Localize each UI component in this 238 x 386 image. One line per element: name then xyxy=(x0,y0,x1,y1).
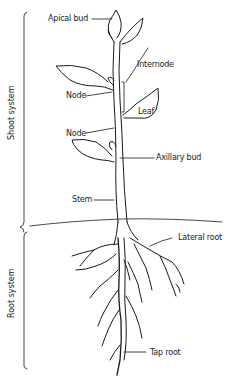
label-axillary-bud: Axillary bud xyxy=(156,154,201,162)
apical-bud-drawing xyxy=(108,10,143,44)
label-leaf: Leaf xyxy=(138,108,154,116)
label-stem: Stem xyxy=(72,196,92,204)
upper-left-leaf xyxy=(56,65,114,90)
lateral-root-leader xyxy=(150,238,172,246)
shoot-system-bracket xyxy=(20,12,27,232)
label-internode: Internode xyxy=(137,61,174,69)
label-shoot-system: Shoot system xyxy=(8,85,16,140)
stem xyxy=(113,42,138,245)
plant-drawing xyxy=(0,0,238,386)
root-system-bracket xyxy=(24,232,27,369)
label-root-system: Root system xyxy=(8,268,16,318)
label-tap-root: Tap root xyxy=(150,349,181,357)
node-upper-leader xyxy=(86,92,112,96)
label-node-lower: Node xyxy=(66,130,86,138)
ground-line xyxy=(30,219,222,226)
label-apical-bud: Apical bud xyxy=(48,15,88,23)
label-node-upper: Node xyxy=(66,92,86,100)
label-lateral-root: Lateral root xyxy=(178,234,222,242)
node-lower-leader xyxy=(86,128,114,133)
plant-anatomy-diagram: Apical bud Internode Node Leaf Node Axil… xyxy=(0,0,238,386)
lower-left-leaf xyxy=(72,139,116,162)
